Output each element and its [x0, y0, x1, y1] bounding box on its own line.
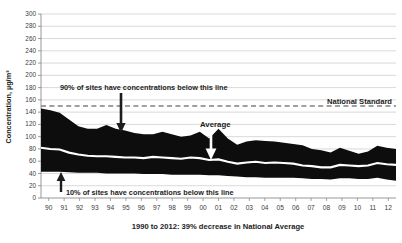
x-tick-label: 11	[369, 204, 376, 211]
y-tick-label: 60	[29, 157, 37, 164]
x-tick-label: 98	[169, 204, 177, 211]
y-tick-label: 180	[25, 84, 36, 91]
x-tick-label: 99	[184, 204, 192, 211]
x-tick-label: 12	[385, 204, 393, 211]
x-tick-label: 02	[230, 204, 238, 211]
y-tick-label: 120	[25, 120, 36, 127]
y-tick-label: 100	[25, 133, 36, 140]
x-tick-label: 03	[246, 204, 254, 211]
x-tick-label: 01	[215, 204, 223, 211]
y-tick-label: 140	[25, 108, 36, 115]
x-tick-label: 08	[323, 204, 331, 211]
y-tick-label: 80	[29, 145, 37, 152]
average-annotation-label: Average	[200, 120, 231, 129]
chart-container: 0204060801001201401601802002202402602803…	[0, 0, 402, 243]
y-tick-label: 260	[25, 35, 36, 42]
y-axis-title: Concentration, µg/m³	[4, 70, 13, 144]
y-tick-label: 200	[25, 71, 36, 78]
x-tick-label: 09	[338, 204, 346, 211]
p10-annotation-label: 10% of sites have concentrations below t…	[66, 188, 233, 197]
x-tick-label: 91	[60, 204, 68, 211]
p90-annotation-label: 90% of sites have concentrations below t…	[60, 83, 227, 92]
x-tick-label: 04	[261, 204, 269, 211]
x-tick-label: 90	[45, 204, 53, 211]
x-tick-label: 05	[277, 204, 285, 211]
x-tick-label: 10	[354, 204, 362, 211]
x-tick-label: 97	[153, 204, 161, 211]
x-tick-label: 93	[91, 204, 99, 211]
x-tick-label: 06	[292, 204, 300, 211]
y-tick-label: 20	[29, 182, 37, 189]
concentration-area-chart: 0204060801001201401601802002202402602803…	[0, 0, 402, 243]
x-tick-label: 00	[199, 204, 207, 211]
y-tick-label: 0	[32, 194, 36, 201]
x-axis-title: 1990 to 2012: 39% decrease in National A…	[132, 222, 305, 231]
y-tick-label: 280	[25, 22, 36, 29]
x-tick-label: 95	[122, 204, 130, 211]
y-tick-label: 220	[25, 59, 36, 66]
x-tick-label: 07	[307, 204, 315, 211]
y-tick-label: 240	[25, 47, 36, 54]
y-tick-label: 300	[25, 10, 36, 17]
y-tick-label: 40	[29, 170, 37, 177]
y-tick-label: 160	[25, 96, 36, 103]
x-tick-label: 96	[138, 204, 146, 211]
national-standard-label: National Standard	[327, 97, 392, 106]
x-tick-label: 92	[76, 204, 84, 211]
x-tick-label: 94	[107, 204, 115, 211]
